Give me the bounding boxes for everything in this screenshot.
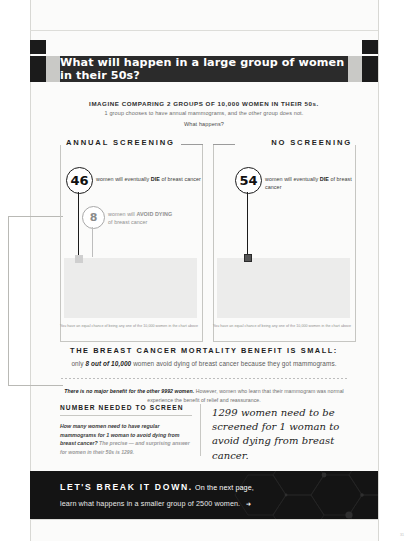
nns-vertical-divider xyxy=(200,404,201,456)
scan-artifact-right-2 xyxy=(362,56,378,82)
intro-block: IMAGINE COMPARING 2 GROUPS OF 10,000 WOM… xyxy=(40,100,368,127)
panel-a-footnote: You have an equal chance of being any on… xyxy=(60,324,198,328)
panel-b-die-count: 54 xyxy=(239,173,257,188)
panel-a-die-circle: 46 xyxy=(66,167,93,194)
margin-rule-top xyxy=(30,30,378,31)
page-right-margin xyxy=(378,0,408,541)
panel-a-avoid-count: 8 xyxy=(90,211,98,224)
nns-callout: 1299 women need to be screened for 1 wom… xyxy=(212,406,358,463)
page-banner: What will happen in a large group of wom… xyxy=(60,56,348,82)
intro-line-1: IMAGINE COMPARING 2 GROUPS OF 10,000 WOM… xyxy=(40,100,368,107)
page-root: What will happen in a large group of wom… xyxy=(0,0,408,541)
panel-b-die-label-bold: DIE xyxy=(320,176,329,182)
panel-a-die-stem xyxy=(78,192,79,256)
footer-lead-strong: LET'S BREAK IT DOWN. xyxy=(60,482,193,492)
margin-rule-right xyxy=(378,0,379,541)
intro-line-2: 1 group chooses to have annual mammogram… xyxy=(40,110,368,116)
footer-lead-rest: On the next page, xyxy=(193,483,254,492)
panel-a-avoid-label-bold: AVOID DYING xyxy=(136,211,172,217)
panel-b-die-stem xyxy=(247,192,248,256)
footer-lead: LET'S BREAK IT DOWN. On the next page, xyxy=(60,482,254,492)
number-needed-to-screen-block: NUMBER NEEDED TO SCREEN How many women n… xyxy=(60,404,192,456)
panel-b-footnote: You have an equal chance of being any on… xyxy=(213,324,351,328)
panel-a-marker xyxy=(75,255,83,263)
panel-a-die-label-bold: DIE xyxy=(151,176,160,182)
panel-b-marker xyxy=(244,254,252,262)
panel-a-avoid-label-pre: women will xyxy=(108,211,136,217)
panel-a-avoid-label: women will AVOID DYING of breast cancer xyxy=(108,210,200,227)
page-number: 31 xyxy=(400,533,404,537)
hexagon-pattern-icon xyxy=(228,471,378,519)
mortality-benefit-sub: only 8 out of 10,000 women avoid dying o… xyxy=(54,360,354,367)
nns-rule xyxy=(60,415,192,416)
panel-b-dot-field xyxy=(217,258,350,318)
panel-b-die-circle: 54 xyxy=(235,167,262,194)
mortality-sub-pre: only xyxy=(71,360,85,367)
scan-artifact-right xyxy=(362,40,378,54)
panel-a-die-count: 46 xyxy=(70,173,88,188)
panel-b-die-label-pre: women will eventually xyxy=(265,176,320,182)
panel-a-avoid-label-line2: of breast cancer xyxy=(108,219,147,225)
margin-rule-bottom xyxy=(30,519,378,520)
page-title: What will happen in a large group of wom… xyxy=(60,56,348,82)
panel-a-die-label-pre: women will eventually xyxy=(96,176,151,182)
panel-a-avoid-circle: 8 xyxy=(82,206,105,229)
panel-no-screening: NO SCREENING 54 women will eventually DI… xyxy=(213,138,356,152)
mortality-benefit-heading: THE BREAST CANCER MORTALITY BENEFIT IS S… xyxy=(54,346,354,355)
page-footer: LET'S BREAK IT DOWN. On the next page, l… xyxy=(30,471,378,519)
nns-heading: NUMBER NEEDED TO SCREEN xyxy=(60,404,192,411)
panel-a-dot-field xyxy=(64,258,197,318)
panel-a-die-label-post: of breast cancer xyxy=(160,176,201,182)
arrow-right-icon: ➜ xyxy=(246,500,251,507)
mortality-note-bold: There is no major benefit for the other … xyxy=(64,388,194,394)
footer-line-2-text: learn what happens in a smaller group of… xyxy=(60,499,240,508)
panel-a-avoid-stem xyxy=(92,227,93,257)
scan-artifact-left xyxy=(30,40,46,54)
footer-line-2: learn what happens in a smaller group of… xyxy=(60,499,251,508)
panel-a-die-label: women will eventually DIE of breast canc… xyxy=(96,175,201,183)
mortality-divider xyxy=(61,378,347,379)
panel-annual-screening: ANNUAL SCREENING 46 women will eventuall… xyxy=(60,138,203,152)
mortality-sub-post: women avoid dying of breast cancer becau… xyxy=(131,360,336,367)
mortality-sub-bold: 8 out of 10,000 xyxy=(85,360,131,367)
mortality-note: There is no major benefit for the other … xyxy=(54,387,354,405)
nns-question: How many women need to have regular mamm… xyxy=(60,422,192,456)
scan-artifact-left-2 xyxy=(30,56,46,82)
mortality-benefit-block: THE BREAST CANCER MORTALITY BENEFIT IS S… xyxy=(54,346,354,405)
panel-b-die-label: women will eventually DIE of breast canc… xyxy=(265,175,357,192)
intro-line-3: What happens? xyxy=(40,121,368,127)
